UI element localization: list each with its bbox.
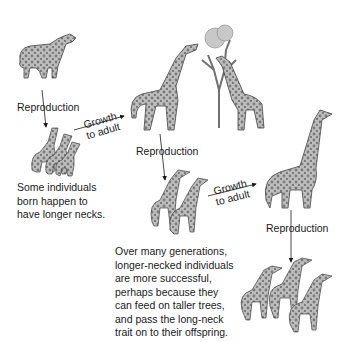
long-neck-adult-icon [265, 110, 332, 208]
offspring-group-1-icon [32, 128, 80, 176]
feeding-giraffes-icon [131, 44, 264, 130]
juvenile-giraffes-icon [151, 170, 208, 234]
label-reproduction-3: Reproduction [266, 222, 328, 234]
caption-longer-necks: Some individuals born happen to have lon… [17, 181, 105, 222]
caption-selection: Over many generations, longer-necked ind… [115, 245, 234, 340]
label-reproduction-2: Reproduction [136, 145, 198, 157]
offspring-group-final-icon [241, 258, 332, 332]
ancestor-giraffe-icon [20, 34, 77, 78]
label-reproduction-1: Reproduction [17, 101, 79, 113]
